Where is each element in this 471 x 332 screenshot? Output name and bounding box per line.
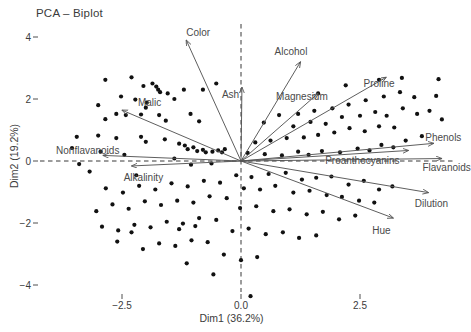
variable-label-color: Color	[186, 26, 210, 37]
data-point	[273, 184, 277, 188]
data-point	[440, 117, 444, 121]
data-point	[211, 272, 215, 276]
data-point	[434, 94, 438, 98]
data-point	[129, 75, 133, 79]
variable-label-proline: Proline	[363, 77, 394, 88]
variable-label-alkalinity: Alkalinity	[124, 171, 163, 182]
data-point	[96, 103, 100, 107]
data-point	[177, 142, 181, 146]
data-point	[401, 106, 405, 110]
data-point	[385, 114, 389, 118]
data-point	[110, 202, 114, 206]
data-point	[324, 122, 328, 126]
data-point	[268, 138, 272, 142]
data-point	[182, 88, 186, 92]
data-point	[222, 253, 226, 257]
data-point	[258, 187, 262, 191]
data-point	[201, 88, 205, 92]
data-point	[133, 98, 137, 102]
data-point	[316, 133, 320, 137]
data-point	[291, 191, 295, 195]
data-point	[320, 149, 324, 153]
data-point	[158, 90, 162, 94]
data-point	[116, 228, 120, 232]
data-point	[218, 181, 222, 185]
data-point	[100, 225, 104, 229]
data-point	[153, 187, 157, 191]
data-point	[169, 181, 173, 185]
data-point	[141, 247, 145, 251]
data-point	[104, 186, 108, 190]
variable-vector-color	[186, 40, 241, 161]
variable-label-hue: Hue	[372, 224, 390, 235]
data-point	[302, 135, 306, 139]
data-point	[189, 238, 193, 242]
data-point	[346, 102, 350, 106]
data-point	[353, 213, 357, 217]
variable-label-nonflavanoids: Nonflavanoids	[56, 144, 119, 155]
data-points	[70, 75, 444, 298]
data-point	[183, 143, 187, 147]
data-point	[392, 125, 396, 129]
data-point	[181, 222, 185, 226]
data-point	[247, 226, 251, 230]
data-point	[225, 196, 229, 200]
variable-label-dilution: Dilution	[415, 198, 448, 209]
data-point	[400, 76, 404, 80]
variable-vector-alkalinity	[132, 161, 241, 166]
data-point	[284, 171, 288, 175]
data-point	[373, 110, 377, 114]
variable-label-magnesium: Magnesium	[276, 90, 328, 101]
data-point	[88, 169, 92, 173]
data-point	[188, 112, 192, 116]
variable-label-phenols: Phenols	[425, 132, 461, 143]
data-point	[300, 178, 304, 182]
data-point	[195, 149, 199, 153]
data-point	[297, 236, 301, 240]
data-point	[415, 112, 419, 116]
data-point	[379, 143, 383, 147]
data-point	[398, 90, 402, 94]
data-point	[285, 136, 289, 140]
data-point	[177, 227, 181, 231]
data-point	[124, 113, 128, 117]
data-point	[238, 206, 242, 210]
y-tick-label: −2	[20, 218, 31, 229]
data-point	[197, 216, 201, 220]
data-point	[129, 230, 133, 234]
data-point	[347, 126, 351, 130]
data-point	[139, 112, 143, 116]
data-point	[159, 203, 163, 207]
data-point	[346, 182, 350, 186]
variable-vectors	[103, 40, 442, 218]
data-point	[267, 172, 271, 176]
data-point	[173, 244, 177, 248]
data-point	[314, 176, 318, 180]
data-point	[372, 200, 376, 204]
data-point	[197, 119, 201, 123]
data-point	[377, 124, 381, 128]
data-point	[127, 207, 131, 211]
data-point	[214, 218, 218, 222]
data-point	[307, 189, 311, 193]
data-point	[204, 150, 208, 154]
data-point	[150, 81, 154, 85]
data-point	[340, 115, 344, 119]
data-point	[186, 184, 190, 188]
data-point	[165, 220, 169, 224]
data-point	[115, 240, 119, 244]
data-point	[363, 129, 367, 133]
data-point	[337, 217, 341, 221]
data-point	[263, 152, 267, 156]
data-point	[234, 173, 238, 177]
data-point	[412, 95, 416, 99]
data-point	[157, 113, 161, 117]
data-point	[191, 145, 195, 149]
data-point	[357, 199, 361, 203]
data-point	[114, 136, 118, 140]
x-tick-label: 0.0	[234, 300, 248, 311]
data-point	[103, 117, 107, 121]
data-point	[121, 191, 125, 195]
variable-label-flavanoids: Flavanoids	[422, 162, 470, 173]
data-point	[314, 233, 318, 237]
